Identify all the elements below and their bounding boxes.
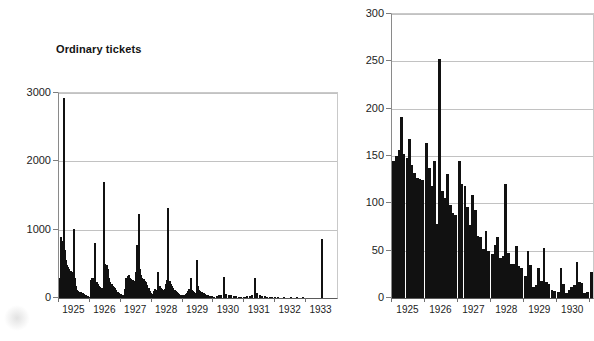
bar [283, 297, 285, 298]
bar [454, 215, 457, 298]
y-axis-tick-label: 2000 [0, 154, 51, 166]
x-axis-tick-mark [212, 298, 213, 302]
x-axis-tick-label: 1927 [124, 304, 146, 315]
right-chart-panel: 050100150200250300 192519261927192819291… [350, 0, 594, 341]
y-axis-tick-label: 3000 [0, 86, 51, 98]
x-axis-tick-mark [523, 298, 524, 302]
x-axis-tick-label: 1932 [279, 304, 301, 315]
figure-container: Ordinary tickets 0100020003000 192519261… [0, 0, 594, 341]
x-axis-tick-mark [89, 298, 90, 302]
x-axis-tick-mark [58, 298, 59, 302]
x-axis-tick-mark [243, 298, 244, 302]
x-axis-tick-label: 1925 [62, 304, 84, 315]
x-axis-tick-mark [305, 298, 306, 302]
x-axis-tick-label: 1925 [396, 304, 418, 315]
y-axis-tick-label: 200 [350, 102, 384, 114]
x-axis-tick-mark [457, 298, 458, 302]
right-bar-series [392, 14, 593, 298]
bar [553, 291, 556, 298]
left-chart-title: Ordinary tickets [56, 43, 141, 55]
y-axis-tick-label: 0 [0, 291, 51, 303]
x-axis-tick-label: 1931 [248, 304, 270, 315]
x-axis-tick-mark [556, 298, 557, 302]
bar [421, 180, 424, 298]
bar [590, 272, 593, 299]
y-axis-tick-label: 300 [350, 7, 384, 19]
bar [277, 297, 279, 298]
y-axis-tick-label: 1000 [0, 223, 51, 235]
left-bar-series [59, 93, 337, 298]
x-axis-tick-mark [120, 298, 121, 302]
x-axis-tick-label: 1929 [186, 304, 208, 315]
y-axis-tick-label: 0 [350, 291, 384, 303]
bar [487, 251, 490, 298]
x-axis-tick-label: 1927 [462, 304, 484, 315]
y-axis-tick-label: 50 [350, 244, 384, 256]
x-axis-tick-label: 1926 [429, 304, 451, 315]
bar [302, 297, 304, 298]
x-axis-tick-mark [274, 298, 275, 302]
x-axis-tick-mark [151, 298, 152, 302]
x-axis-tick-label: 1928 [495, 304, 517, 315]
bar [321, 239, 323, 298]
x-axis-tick-label: 1929 [528, 304, 550, 315]
x-axis-tick-mark [589, 298, 590, 302]
x-axis-tick-mark [182, 298, 183, 302]
x-axis-tick-label: 1926 [93, 304, 115, 315]
bar [290, 297, 292, 298]
x-axis-tick-mark [490, 298, 491, 302]
y-axis-tick-label: 100 [350, 196, 384, 208]
x-axis-tick-label: 1930 [561, 304, 583, 315]
right-plot-area [391, 13, 594, 299]
x-axis-tick-label: 1933 [309, 304, 331, 315]
left-plot-area [58, 92, 338, 299]
x-axis-tick-mark [391, 298, 392, 302]
x-axis-tick-label: 1930 [217, 304, 239, 315]
bar [296, 297, 298, 298]
left-chart-panel: Ordinary tickets 0100020003000 192519261… [0, 0, 350, 341]
y-axis-tick-label: 150 [350, 149, 384, 161]
y-axis-tick-label: 250 [350, 54, 384, 66]
x-axis-tick-mark [424, 298, 425, 302]
bar [520, 268, 523, 298]
x-axis-tick-label: 1928 [155, 304, 177, 315]
